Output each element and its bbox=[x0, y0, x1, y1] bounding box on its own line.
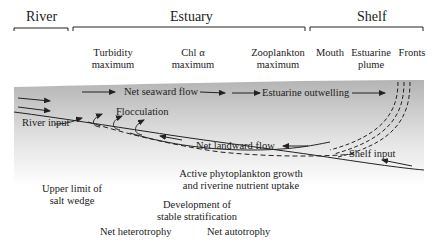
net-landward-flow-label: Net landward flow bbox=[196, 140, 275, 152]
plume-line2: plume bbox=[346, 59, 396, 71]
net-autotrophy-label: Net autotrophy bbox=[207, 226, 270, 238]
chla-maximum-label: Chl α maximum bbox=[168, 47, 218, 71]
estuarine-plume-label: Estuarine plume bbox=[346, 47, 396, 71]
phytoplankton-growth-label: Active phytoplankton growth and riverine… bbox=[176, 168, 306, 192]
mouth-label: Mouth bbox=[313, 47, 347, 59]
zooplankton-maximum-label: Zooplankton maximum bbox=[246, 47, 310, 71]
shelf-input-label: Shelf input bbox=[349, 148, 395, 160]
phyto-line1: Active phytoplankton growth bbox=[176, 168, 306, 180]
turbidity-maximum-label: Turbidity maximum bbox=[82, 47, 144, 71]
turbidity-line1: Turbidity bbox=[82, 47, 144, 59]
strat-line2: stable stratification bbox=[155, 211, 239, 223]
turbidity-line2: maximum bbox=[82, 59, 144, 71]
region-river-label: River bbox=[26, 9, 57, 25]
zoo-line2: maximum bbox=[246, 59, 310, 71]
chla-line1: Chl α bbox=[168, 47, 218, 59]
zoo-line1: Zooplankton bbox=[246, 47, 310, 59]
net-seaward-flow-label: Net seaward flow bbox=[124, 86, 198, 98]
chla-line2: maximum bbox=[168, 59, 218, 71]
salt-wedge-label: Upper limit of salt wedge bbox=[36, 183, 108, 207]
estuary-bracket bbox=[73, 27, 305, 31]
salt-wedge-line2: salt wedge bbox=[36, 195, 108, 207]
net-heterotrophy-label: Net heterotrophy bbox=[100, 226, 171, 238]
region-shelf-label: Shelf bbox=[357, 9, 387, 25]
river-bracket bbox=[14, 28, 68, 31]
fronts-label: Fronts bbox=[393, 47, 431, 59]
stratification-label: Development of stable stratification bbox=[155, 199, 239, 223]
phyto-line2: and riverine nutrient uptake bbox=[176, 180, 306, 192]
salt-wedge-line1: Upper limit of bbox=[36, 183, 108, 195]
shelf-bracket bbox=[310, 27, 423, 31]
plume-line1: Estuarine bbox=[346, 47, 396, 59]
river-input-label: River input bbox=[22, 117, 70, 129]
estuarine-outwelling-label: Estuarine outwelling bbox=[262, 87, 349, 99]
strat-line1: Development of bbox=[155, 199, 239, 211]
region-estuary-label: Estuary bbox=[170, 9, 213, 25]
flocculation-label: Flocculation bbox=[116, 106, 169, 118]
